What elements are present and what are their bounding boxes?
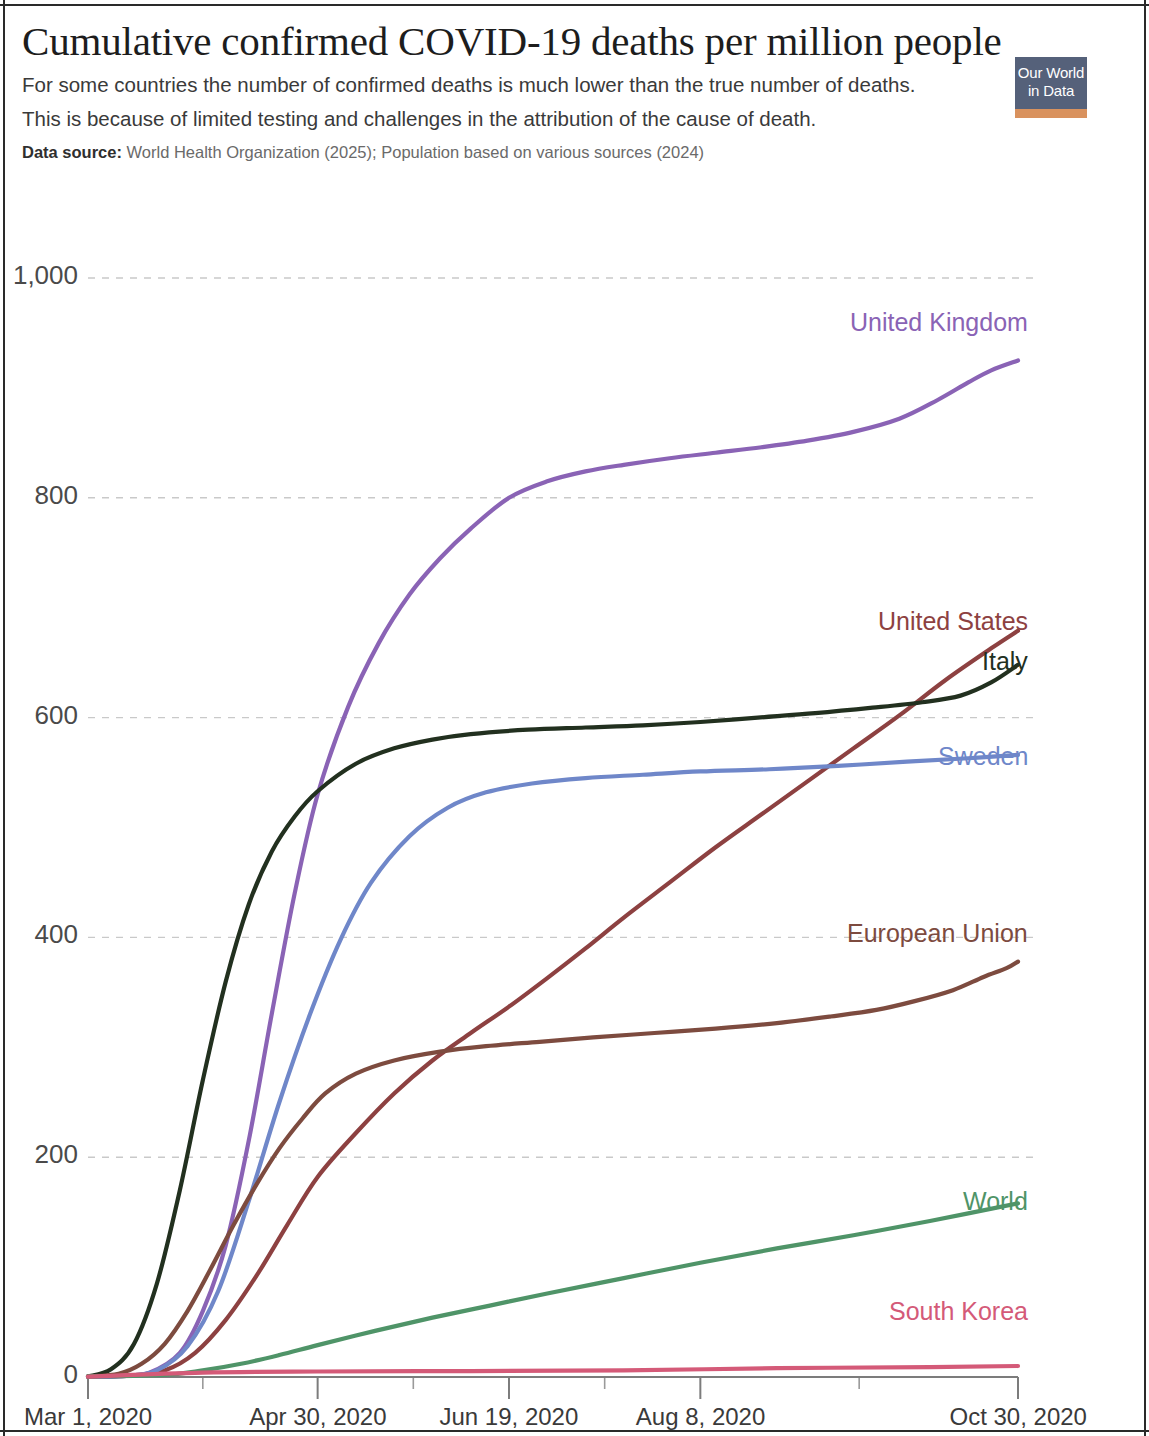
x-axis-tick-label: Apr 30, 2020 xyxy=(249,1403,386,1431)
series-line[interactable] xyxy=(88,1203,1018,1376)
y-axis-tick-label: 1,000 xyxy=(0,260,78,291)
series-label[interactable]: Italy xyxy=(982,647,1028,676)
series-label[interactable]: United Kingdom xyxy=(850,308,1028,337)
data-series-lines xyxy=(88,360,1018,1376)
y-axis-tick-label: 800 xyxy=(0,480,78,511)
series-line[interactable] xyxy=(88,360,1018,1376)
series-label[interactable]: European Union xyxy=(847,919,1028,948)
x-axis-ticks xyxy=(88,1377,1018,1399)
y-axis-tick-label: 600 xyxy=(0,700,78,731)
series-label[interactable]: World xyxy=(963,1187,1028,1216)
chart-plot-area: 02004006008001,000 Mar 1, 2020Apr 30, 20… xyxy=(0,0,1149,1436)
x-axis-tick-label: Oct 30, 2020 xyxy=(950,1403,1087,1431)
series-label[interactable]: Sweden xyxy=(938,742,1028,771)
x-axis-tick-label: Aug 8, 2020 xyxy=(636,1403,765,1431)
series-line[interactable] xyxy=(88,755,1018,1377)
chart-page: Cumulative confirmed COVID-19 deaths per… xyxy=(0,0,1149,1436)
y-axis-tick-label: 400 xyxy=(0,919,78,950)
line-chart-svg xyxy=(0,0,1149,1436)
series-label[interactable]: South Korea xyxy=(889,1297,1028,1326)
y-axis-tick-label: 200 xyxy=(0,1139,78,1170)
x-axis-tick-label: Jun 19, 2020 xyxy=(439,1403,578,1431)
series-label[interactable]: United States xyxy=(878,607,1028,636)
y-axis-tick-label: 0 xyxy=(0,1359,78,1390)
x-axis-tick-label: Mar 1, 2020 xyxy=(24,1403,152,1431)
